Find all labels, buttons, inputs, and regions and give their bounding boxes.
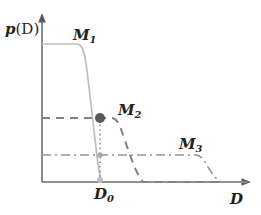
annotation-m3: M3 <box>179 135 202 154</box>
series-m3-path <box>42 155 248 182</box>
annotation-m1-sub: 1 <box>90 34 97 45</box>
annotation-m1-base: M <box>73 26 90 44</box>
annotation-m2-sub: 2 <box>135 109 142 120</box>
m3-crossing-point <box>97 152 102 157</box>
series-m1 <box>42 44 101 182</box>
y-axis-label-base: p <box>5 20 16 38</box>
x-tick-label-d0: D0 <box>94 185 114 204</box>
figure-canvas: p(D) M1 M2 M3 D0 D <box>0 0 261 215</box>
annotation-m2: M2 <box>118 101 141 120</box>
annotation-m2-base: M <box>118 101 135 119</box>
y-axis-arrow-icon <box>38 13 46 23</box>
x-tick-label-sub: 0 <box>107 193 114 204</box>
x-axis-label: D <box>230 190 243 208</box>
axis-foot-point <box>97 177 103 183</box>
series-m1-path <box>42 44 101 182</box>
annotation-m3-base: M <box>179 135 196 153</box>
y-axis-label: p(D) <box>5 20 39 38</box>
y-axis-label-arg: (D) <box>16 20 40 38</box>
operating-point[interactable] <box>95 113 105 123</box>
annotation-m1: M1 <box>73 26 96 45</box>
series-m3 <box>42 155 248 182</box>
axes-group <box>38 13 251 186</box>
annotation-m3-sub: 3 <box>196 143 203 154</box>
x-tick-label-base: D <box>94 185 107 203</box>
